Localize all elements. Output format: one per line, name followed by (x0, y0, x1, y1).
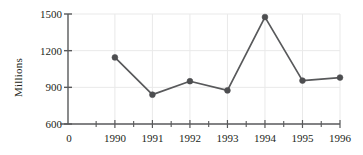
data-point (225, 87, 231, 93)
data-point (300, 78, 306, 84)
data-point (112, 54, 118, 60)
line-chart: Millions 60090012001500 0199019911992199… (0, 0, 363, 155)
data-point (187, 78, 193, 84)
axis-lines (60, 14, 340, 124)
data-point (150, 92, 156, 98)
grid-lines (68, 14, 340, 124)
tick-marks (64, 14, 340, 128)
data-point (262, 14, 268, 20)
plot-area (0, 0, 363, 155)
data-point (337, 75, 343, 81)
